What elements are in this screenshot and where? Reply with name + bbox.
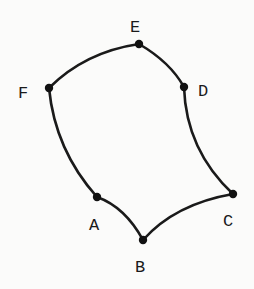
vertex-a <box>93 193 101 201</box>
label-b: B <box>135 258 145 277</box>
label-f: F <box>18 84 28 103</box>
vertex-e <box>135 40 143 48</box>
edge-b-a <box>97 197 143 240</box>
vertex-d <box>180 83 188 91</box>
edge-d-c <box>184 87 233 194</box>
curved-polygon-diagram: A B C D E F <box>0 0 254 289</box>
label-a: A <box>89 216 100 235</box>
diagram-canvas: A B C D E F <box>0 0 254 289</box>
label-c: C <box>223 212 233 231</box>
edge-a-f <box>49 88 97 197</box>
vertex-c <box>229 190 237 198</box>
edge-e-d <box>139 44 184 87</box>
vertex-b <box>139 236 147 244</box>
label-d: D <box>198 82 208 101</box>
label-e: E <box>130 18 140 37</box>
edge-f-e <box>49 44 139 88</box>
edge-c-b <box>143 194 233 240</box>
vertex-f <box>45 84 53 92</box>
